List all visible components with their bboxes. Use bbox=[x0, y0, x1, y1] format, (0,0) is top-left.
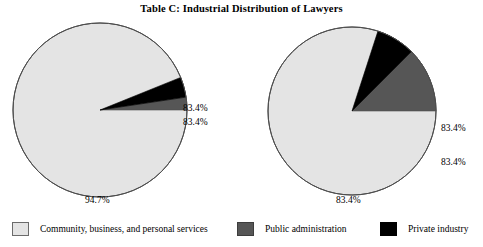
legend-swatch-private-icon bbox=[380, 222, 397, 236]
chart-legend: Community, business, and personal servic… bbox=[0, 219, 483, 245]
pie-label-public-right: 83.4% bbox=[441, 124, 466, 134]
pie-label-private-right: 83.4% bbox=[441, 158, 466, 168]
legend-label-public: Public administration bbox=[265, 224, 347, 234]
pie-chart-left bbox=[11, 21, 191, 201]
chart-root: Table C: Industrial Distribution of Lawy… bbox=[0, 0, 483, 247]
legend-swatch-community-icon bbox=[12, 222, 29, 236]
chart-title: Table C: Industrial Distribution of Lawy… bbox=[0, 3, 483, 14]
pie-label-community-left: 94.7% bbox=[85, 196, 110, 206]
legend-item-community: Community, business, and personal servic… bbox=[12, 219, 208, 239]
pie-label-private-left: 83.4% bbox=[183, 118, 208, 128]
pie-chart-right bbox=[264, 23, 440, 199]
legend-swatch-public-icon bbox=[237, 222, 254, 236]
legend-label-community: Community, business, and personal servic… bbox=[40, 224, 208, 234]
legend-item-private: Private industry bbox=[380, 219, 468, 239]
pie-label-community-right: 83.4% bbox=[336, 196, 361, 206]
legend-label-private: Private industry bbox=[408, 224, 468, 234]
pie-label-public-left: 83.4% bbox=[183, 104, 208, 114]
legend-item-public: Public administration bbox=[237, 219, 347, 239]
